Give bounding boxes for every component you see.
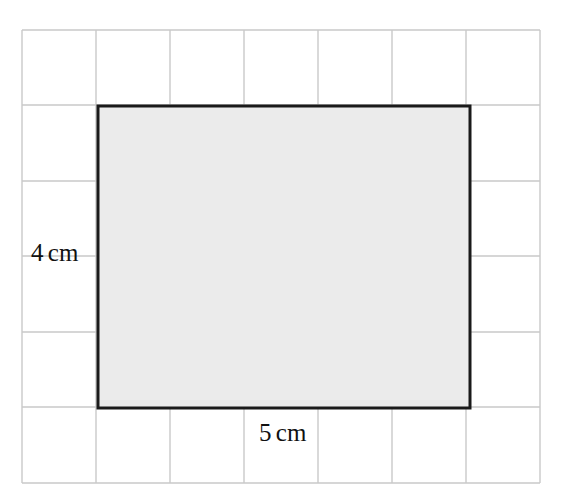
height-dimension-label: 4cm: [31, 240, 79, 265]
rectangle-shape-fill: [98, 106, 470, 408]
width-unit: cm: [276, 419, 307, 446]
geometry-figure: 4cm 5cm: [0, 0, 568, 504]
height-value: 4: [31, 239, 44, 266]
width-value: 5: [259, 419, 272, 446]
width-dimension-label: 5cm: [259, 420, 307, 445]
height-unit: cm: [48, 239, 79, 266]
